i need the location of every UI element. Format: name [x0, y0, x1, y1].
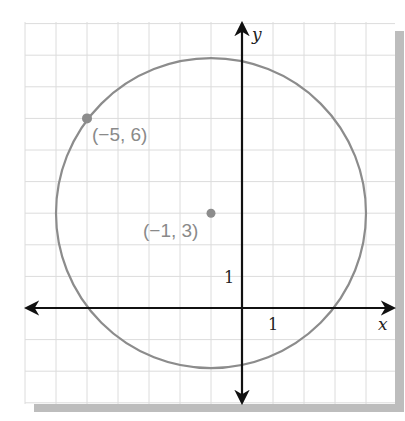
center-point-marker [207, 209, 216, 218]
point-marker [82, 113, 92, 123]
x-tick-label-1: 1 [268, 315, 278, 334]
x-axis-label: x [378, 314, 388, 334]
point-label: (−5, 6) [92, 124, 147, 145]
circle-graph: x y 1 1 (−5, 6) (−1, 3) [0, 0, 405, 421]
center-point-label: (−1, 3) [143, 220, 198, 241]
y-tick-label-1: 1 [224, 268, 234, 287]
y-axis-label: y [251, 24, 262, 44]
